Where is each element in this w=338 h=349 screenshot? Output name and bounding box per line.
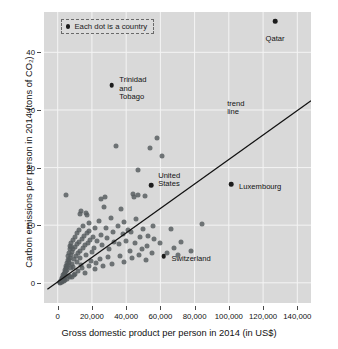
point-annotation: Switzerland [172,255,211,264]
scatter-plot-figure: Each dot is a country QatarTrinidad and … [0,0,338,349]
y-tick [37,283,41,284]
y-tick [37,52,41,53]
x-tick-label: 100,000 [215,312,243,321]
x-tick [126,306,127,310]
y-axis-title: Carbon emissions per person in 2014 (ton… [24,47,34,277]
x-tick [92,306,93,310]
plot-panel: Each dot is a country QatarTrinidad and … [44,12,311,303]
y-tick [37,225,41,226]
x-axis-title: Gross domestic product per person in 201… [0,328,338,338]
x-tick [229,306,230,310]
x-tick-label: 40,000 [114,312,138,321]
y-tick [37,110,41,111]
x-tick-label: 60,000 [148,312,172,321]
x-tick-label: 120,000 [249,312,277,321]
y-tick [37,168,41,169]
y-tick-label: 0 [18,278,35,287]
x-tick-label: 0 [56,312,60,321]
legend: Each dot is a country [61,19,154,34]
x-tick [263,306,264,310]
x-tick [297,306,298,310]
x-tick [195,306,196,310]
point-annotation: Qatar [266,35,285,44]
legend-dot-icon [66,24,70,28]
x-tick-label: 140,000 [283,312,311,321]
point-annotation: United States [158,172,180,189]
x-tick [160,306,161,310]
x-tick-label: 20,000 [80,312,104,321]
legend-label: Each dot is a country [74,22,147,31]
point-annotation: Luxembourg [239,183,281,192]
point-annotation: Trinidad and Tobago [119,76,146,102]
point-annotation: trend line [227,100,244,117]
x-tick [58,306,59,310]
x-tick-label: 80,000 [183,312,207,321]
